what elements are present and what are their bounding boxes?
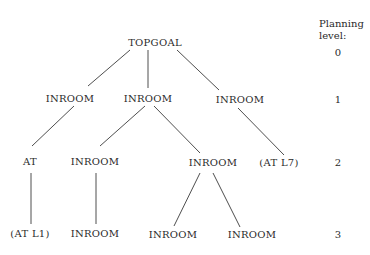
- edge-l2c-l3c: [174, 173, 200, 226]
- edge-l1b-l2c: [154, 106, 200, 153]
- node-l3-inroom-d: INROOM: [228, 229, 277, 240]
- node-l2-inroom-c: INROOM: [189, 157, 238, 168]
- node-l1-inroom-a: INROOM: [46, 93, 95, 104]
- node-l3-inroom-c: INROOM: [149, 229, 198, 240]
- edge-root-l1a: [88, 50, 130, 86]
- node-l1-inroom-c: INROOM: [216, 94, 265, 105]
- planning-level-legend: Planning level: 0 1 2 3: [319, 18, 364, 240]
- node-l2-at: AT: [22, 156, 37, 167]
- edge-l1c-l2d: [238, 108, 284, 155]
- level-0-label: 0: [335, 47, 341, 58]
- edge-l1a-l2a: [32, 106, 74, 146]
- tree-edges: [31, 50, 284, 227]
- node-l2-inroom-b: INROOM: [71, 156, 120, 167]
- edge-l2c-l3d: [213, 173, 240, 227]
- node-l1-inroom-b: INROOM: [124, 93, 173, 104]
- level-1-label: 1: [335, 94, 341, 105]
- node-l2-at-l7: (AT L7): [259, 157, 298, 168]
- tree-nodes: TOPGOAL INROOM INROOM INROOM AT INROOM I…: [10, 37, 298, 240]
- level-2-label: 2: [335, 157, 341, 168]
- legend-title-line2: level:: [319, 30, 346, 41]
- planning-tree-diagram: TOPGOAL INROOM INROOM INROOM AT INROOM I…: [0, 0, 370, 255]
- node-l3-at-l1: (AT L1): [10, 228, 49, 239]
- edge-l1b-l2b: [100, 106, 145, 146]
- node-l3-inroom-b: INROOM: [71, 228, 120, 239]
- legend-title-line1: Planning: [319, 18, 364, 29]
- level-3-label: 3: [335, 229, 341, 240]
- node-topgoal: TOPGOAL: [128, 37, 182, 48]
- edge-root-l1c: [177, 50, 219, 90]
